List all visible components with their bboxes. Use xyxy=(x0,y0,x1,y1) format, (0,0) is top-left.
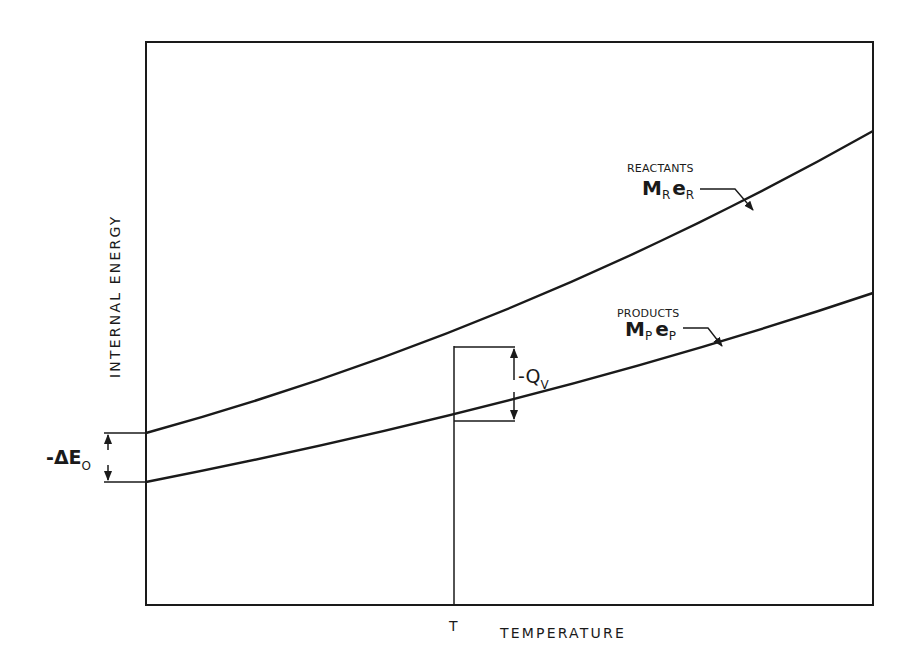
reactants-label: REACTANTS xyxy=(627,162,694,175)
y-axis-label: INTERNAL ENERGY xyxy=(107,214,123,378)
x-axis-label: TEMPERATURE xyxy=(499,625,626,641)
reactants-symbol: MReR xyxy=(642,176,694,202)
products-curve xyxy=(146,293,873,482)
temperature-marker-label: T xyxy=(448,618,460,634)
energy-diagram: REACTANTS MReR PRODUCTS MPeP -QV -ΔEO T … xyxy=(0,0,906,659)
products-symbol: MPeP xyxy=(625,317,676,343)
qv-label: -QV xyxy=(518,365,550,392)
qv-bracket xyxy=(454,347,515,421)
reactants-curve xyxy=(146,131,873,433)
delta-e0-bracket xyxy=(104,433,146,482)
delta-e0-label: -ΔEO xyxy=(46,446,91,473)
plot-frame xyxy=(146,42,873,605)
